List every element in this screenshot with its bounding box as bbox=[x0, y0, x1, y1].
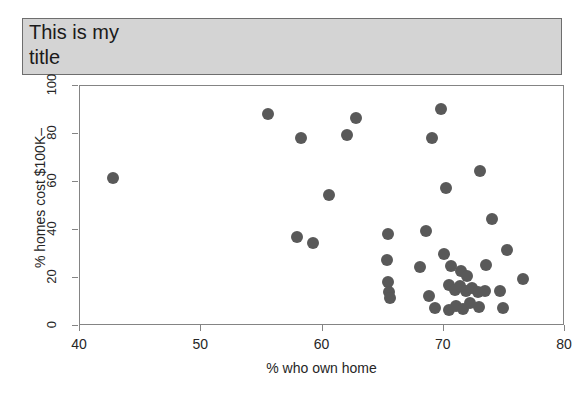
x-tick-label: 40 bbox=[59, 336, 99, 352]
data-point bbox=[295, 132, 307, 144]
x-tick-label: 70 bbox=[423, 336, 463, 352]
data-point bbox=[486, 213, 498, 225]
data-point bbox=[107, 172, 119, 184]
x-tick-mark bbox=[322, 325, 323, 331]
x-tick-mark bbox=[443, 325, 444, 331]
data-point bbox=[423, 290, 435, 302]
y-axis-label: % homes cost $100K– bbox=[32, 88, 48, 308]
data-point bbox=[517, 273, 529, 285]
data-point bbox=[414, 261, 426, 273]
data-point bbox=[501, 244, 513, 256]
data-point bbox=[384, 292, 396, 304]
data-point bbox=[382, 228, 394, 240]
data-point bbox=[497, 302, 509, 314]
data-point bbox=[435, 103, 447, 115]
chart-title: This is my title bbox=[29, 20, 279, 70]
data-point bbox=[307, 237, 319, 249]
x-tick-label: 60 bbox=[302, 336, 342, 352]
data-point bbox=[323, 189, 335, 201]
y-tick-mark bbox=[72, 277, 78, 278]
x-tick-mark bbox=[79, 325, 80, 331]
data-point bbox=[341, 129, 353, 141]
data-point bbox=[381, 254, 393, 266]
data-point bbox=[494, 285, 506, 297]
scatter-plot-figure: This is my title 020406080100 4050607080… bbox=[0, 0, 586, 399]
data-point bbox=[473, 301, 485, 313]
data-point bbox=[426, 132, 438, 144]
data-point bbox=[291, 231, 303, 243]
data-point bbox=[429, 302, 441, 314]
data-point bbox=[262, 108, 274, 120]
data-point bbox=[438, 248, 450, 260]
x-tick-label: 50 bbox=[180, 336, 220, 352]
y-tick-mark bbox=[72, 133, 78, 134]
data-point bbox=[479, 285, 491, 297]
y-tick-label: 0 bbox=[44, 310, 59, 340]
data-point bbox=[420, 225, 432, 237]
data-point bbox=[480, 259, 492, 271]
data-point bbox=[440, 182, 452, 194]
y-tick-mark bbox=[72, 229, 78, 230]
x-tick-label: 80 bbox=[544, 336, 584, 352]
y-tick-mark bbox=[72, 325, 78, 326]
x-tick-mark bbox=[564, 325, 565, 331]
y-tick-mark bbox=[72, 85, 78, 86]
y-tick-mark bbox=[72, 181, 78, 182]
data-point bbox=[474, 165, 486, 177]
x-tick-mark bbox=[200, 325, 201, 331]
data-point bbox=[350, 112, 362, 124]
x-axis-label: % who own home bbox=[79, 360, 564, 376]
title-banner: This is my title bbox=[22, 18, 562, 75]
plot-area bbox=[79, 85, 564, 325]
